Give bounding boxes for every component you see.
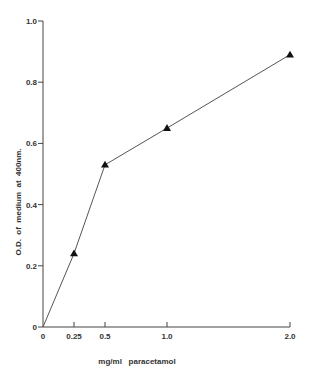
data-line [43,55,290,327]
x-axis-ticks: 00.250.51.02.0 [41,322,296,341]
y-axis-label: O.D. of medium at 400nm. [14,148,23,255]
x-tick-label: 2.0 [284,332,296,341]
y-axis-ticks: 00.20.40.60.81.0 [26,17,43,332]
axes [43,21,290,327]
triangle-marker-icon [70,250,78,257]
data-markers [70,51,294,257]
y-tick-label: 0.6 [26,139,38,148]
line-chart: 00.250.51.02.0 00.20.40.60.81.0 mg/ml pa… [0,0,311,380]
x-tick-label: 0.5 [99,332,111,341]
triangle-marker-icon [101,161,109,168]
x-tick-label: 0.25 [66,332,82,341]
x-axis-label: mg/ml paracetamol [98,357,175,366]
x-tick-label: 0 [41,332,46,341]
triangle-marker-icon [163,124,171,131]
triangle-marker-icon [286,51,294,58]
y-tick-label: 0.4 [26,201,38,210]
y-tick-label: 0.8 [26,78,38,87]
x-tick-label: 1.0 [161,332,173,341]
y-tick-label: 0.2 [26,262,38,271]
y-tick-label: 1.0 [26,17,38,26]
y-tick-label: 0 [33,323,38,332]
